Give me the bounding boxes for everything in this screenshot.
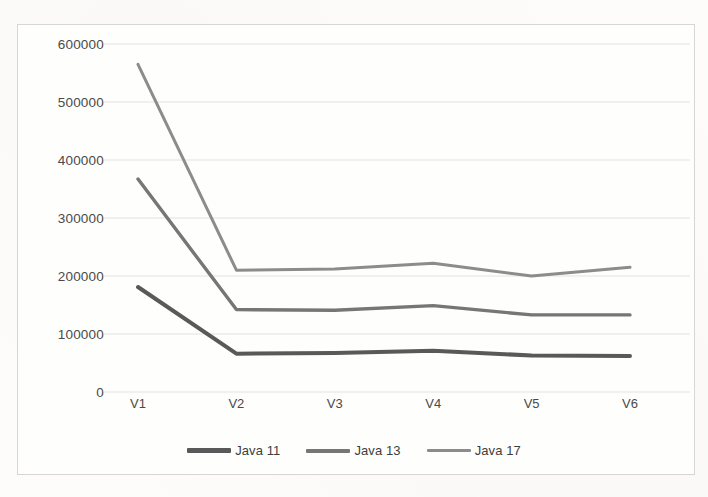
legend-label: Java 11 <box>235 443 280 458</box>
line-chart-plot <box>0 0 708 497</box>
legend-swatch-icon <box>187 448 231 453</box>
legend-label: Java 17 <box>475 443 521 458</box>
x-axis-tick-label: V4 <box>425 396 441 411</box>
legend-item[interactable]: Java 11 <box>187 443 280 458</box>
gridlines <box>104 44 690 392</box>
x-axis-tick-label: V5 <box>524 396 540 411</box>
y-axis-tick-label: 200000 <box>58 269 104 284</box>
legend-swatch-icon <box>427 449 471 453</box>
legend-item[interactable]: Java 17 <box>427 443 521 458</box>
x-axis-tick-label: V6 <box>622 396 638 411</box>
series-line-java-17 <box>138 64 630 276</box>
series-lines <box>138 64 630 356</box>
y-axis-tick-label: 500000 <box>58 95 104 110</box>
x-axis-tick-label: V1 <box>130 396 146 411</box>
x-axis-tick-label: V2 <box>228 396 244 411</box>
series-line-java-13 <box>138 179 630 315</box>
y-axis-tick-labels: 0100000200000300000400000500000600000 <box>28 0 104 497</box>
y-axis-tick-label: 400000 <box>58 153 104 168</box>
y-axis-tick-label: 300000 <box>58 211 104 226</box>
y-axis-tick-label: 600000 <box>58 37 104 52</box>
chart-legend: Java 11Java 13Java 17 <box>0 443 708 458</box>
legend-swatch-icon <box>306 449 350 453</box>
y-axis-tick-label: 0 <box>96 385 104 400</box>
x-axis-tick-label: V3 <box>327 396 343 411</box>
legend-label: Java 13 <box>354 443 400 458</box>
series-line-java-11 <box>138 287 630 356</box>
legend-item[interactable]: Java 13 <box>306 443 400 458</box>
y-axis-tick-label: 100000 <box>58 327 104 342</box>
scanned-page: 0100000200000300000400000500000600000 V1… <box>0 0 708 497</box>
